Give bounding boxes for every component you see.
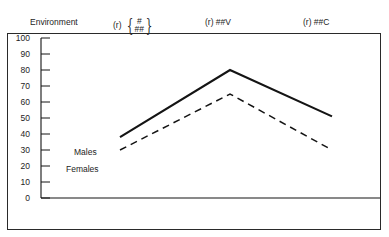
y-tick-label-70: 70 bbox=[8, 82, 30, 91]
header-brace-prefix: (r) bbox=[113, 20, 122, 30]
series-label-males: Males bbox=[74, 148, 97, 157]
series-label-females: Females bbox=[66, 165, 99, 174]
y-tick-label-90: 90 bbox=[8, 50, 30, 59]
y-tick-label-20: 20 bbox=[8, 162, 30, 171]
chart-figure: Environment (r) { # ## } (r) ##V (r) ##C… bbox=[0, 0, 389, 237]
header-label-column-v: (r) ##V bbox=[205, 17, 231, 27]
header-brace-bottom: ## bbox=[135, 25, 144, 33]
y-tick-label-10: 10 bbox=[8, 178, 30, 187]
y-tick-label-100: 100 bbox=[8, 34, 30, 43]
y-tick-label-50: 50 bbox=[8, 114, 30, 123]
brace-open-icon: { bbox=[126, 21, 133, 30]
y-tick-label-30: 30 bbox=[8, 146, 30, 155]
header-label-environment: Environment bbox=[30, 17, 78, 27]
brace-close-icon: } bbox=[146, 21, 153, 30]
header-label-brace-column: (r) { # ## } bbox=[113, 17, 155, 33]
y-tick-label-40: 40 bbox=[8, 130, 30, 139]
y-tick-label-0: 0 bbox=[8, 194, 30, 203]
chart-header-row: Environment (r) { # ## } (r) ##V (r) ##C bbox=[0, 0, 389, 34]
y-tick-label-80: 80 bbox=[8, 66, 30, 75]
plot-area-border bbox=[7, 33, 381, 230]
y-tick-label-60: 60 bbox=[8, 98, 30, 107]
header-label-column-c: (r) ##C bbox=[303, 17, 329, 27]
